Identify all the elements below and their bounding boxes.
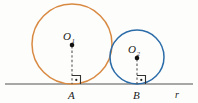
label-o2-group: O 2 [128,43,141,58]
label-o1-subscript: 1 [72,37,76,45]
label-o1: O [63,30,71,42]
label-o2: O [128,43,136,55]
diagram-canvas: O 1 O 2 A B r [0,0,198,103]
label-o1-group: O 1 [63,30,75,45]
geometry-diagram: O 1 O 2 A B r [0,0,198,103]
label-tangent-point-b: B [133,89,140,101]
label-line-r: r [175,89,179,100]
label-tangent-point-a: A [67,89,75,101]
label-o2-subscript: 2 [137,50,141,58]
